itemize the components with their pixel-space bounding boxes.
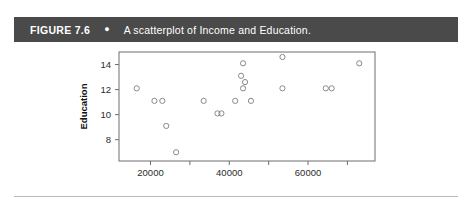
data-point <box>280 54 285 59</box>
data-point <box>174 150 179 155</box>
figure-number-label: FIGURE 7.6 <box>30 24 90 36</box>
data-point <box>323 86 328 91</box>
figure-card: FIGURE 7.6 ● A scatterplot of Income and… <box>0 0 472 206</box>
data-point <box>134 86 139 91</box>
bottom-divider <box>14 196 458 197</box>
data-points <box>134 54 362 154</box>
data-point <box>238 73 243 78</box>
scatter-plot: 200004000060000 8101214 Income Education <box>0 42 472 182</box>
data-point <box>248 98 253 103</box>
data-point <box>242 79 247 84</box>
data-point <box>240 61 245 66</box>
data-point <box>152 98 157 103</box>
x-tick-label: 20000 <box>137 167 163 178</box>
data-point <box>201 98 206 103</box>
figure-caption: A scatterplot of Income and Education. <box>124 24 311 36</box>
x-tick-label: 60000 <box>295 167 321 178</box>
data-point <box>233 98 238 103</box>
y-tick-label: 10 <box>100 109 111 120</box>
data-point <box>164 123 169 128</box>
y-tick-label: 12 <box>100 84 111 95</box>
y-tick-label: 14 <box>100 59 111 70</box>
y-axis-title: Education <box>78 83 89 129</box>
data-point <box>357 61 362 66</box>
data-point <box>160 98 165 103</box>
y-tick-label: 8 <box>106 134 111 145</box>
x-axis-ticks: 200004000060000 <box>137 161 347 178</box>
plot-canvas: 200004000060000 8101214 Income Education <box>0 42 472 182</box>
figure-header-bar: FIGURE 7.6 ● A scatterplot of Income and… <box>14 17 458 42</box>
data-point <box>329 86 334 91</box>
data-point <box>280 86 285 91</box>
bullet-icon: ● <box>104 25 109 34</box>
x-axis-title: Income <box>230 181 263 182</box>
data-point <box>240 86 245 91</box>
plot-frame <box>119 52 375 161</box>
x-tick-label: 40000 <box>216 167 242 178</box>
y-axis-ticks: 8101214 <box>100 59 119 145</box>
